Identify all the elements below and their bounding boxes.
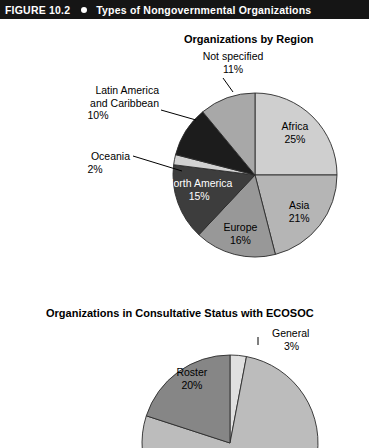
pie-chart-consultative-status: SpecialRoster20% [0, 300, 369, 448]
pie-chart-organizations-by-region: Africa25%Asia21%Europe16%North America15… [0, 0, 369, 290]
pie-value-asia: 21% [289, 212, 310, 224]
pie-2-slices [142, 355, 318, 448]
pie-value-europe: 16% [230, 234, 251, 246]
pie-value-north-america: 15% [189, 190, 210, 202]
leader-line-not-specified [223, 78, 233, 92]
pie-label-north-america: North America [166, 177, 233, 189]
pie-value-africa: 25% [284, 133, 305, 145]
pie-label-africa: Africa [281, 120, 308, 132]
leader-line-latin-america [161, 110, 196, 120]
pie-value-roster: 20% [181, 379, 202, 391]
pie-label-asia: Asia [289, 199, 310, 211]
pie-label-europe: Europe [223, 221, 257, 233]
pie-label-roster: Roster [176, 366, 207, 378]
